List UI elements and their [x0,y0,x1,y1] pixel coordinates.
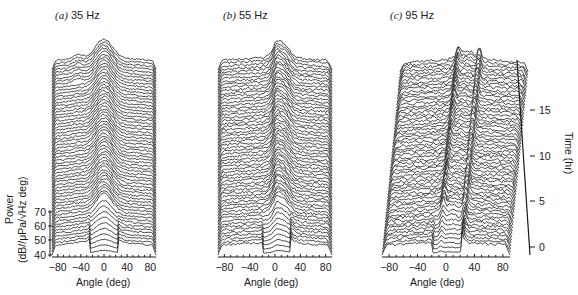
panel-b-title: (b) 55 Hz [223,10,268,21]
panel-c-xlabel: Angle (deg) [410,277,464,288]
panel-b-x-tick: 80 [320,262,332,273]
panel-a-x-tick: 40 [121,262,133,273]
panel-b-x-tick: 0 [272,262,278,273]
panel-c-x-tick: 80 [497,262,509,273]
power-tick-50: 50 [26,235,46,246]
panel-b-x-tick: −80 [215,262,233,273]
time-tick-0: 0 [539,242,545,253]
panel-a-prefix: (a) [55,9,68,21]
panel-b-frequency: 55 Hz [239,9,268,21]
panel-a-traces [52,39,156,255]
panel-c-x-tick: 0 [443,262,449,273]
power-axis-label: Power [4,194,15,224]
panel-a-x-tick: 0 [101,262,107,273]
power-tick-70: 70 [26,207,46,218]
panel-a-frequency: 35 Hz [71,9,100,21]
panel-a-xlabel: Angle (deg) [76,277,130,288]
time-axis-label: Time (hr) [564,132,575,174]
panel-a-x-tick: −80 [49,262,67,273]
panel-c-x-tick: 40 [469,262,481,273]
time-tick-5: 5 [539,196,545,207]
panel-a-title: (a) 35 Hz [55,10,100,21]
panel-c-x-tick: −40 [409,262,427,273]
panel-c-title: (c) 95 Hz [390,10,434,21]
time-tick-10: 10 [539,151,551,162]
panel-a-x-tick: 80 [144,262,156,273]
panel-b-traces [218,41,332,255]
panel-c-traces [382,46,528,255]
panel-b-prefix: (b) [223,9,236,21]
panel-b-x-tick: −40 [241,262,259,273]
waterfall-figure [0,0,578,295]
panel-c-frequency: 95 Hz [405,9,434,21]
panel-c-prefix: (c) [390,9,402,21]
power-tick-40: 40 [26,250,46,261]
panel-a-x-tick: −40 [72,262,90,273]
time-tick-15: 15 [539,105,551,116]
panel-c-x-tick: −80 [380,262,398,273]
panel-b-xlabel: Angle (deg) [244,277,298,288]
power-tick-60: 60 [26,221,46,232]
panel-b-x-tick: 40 [294,262,306,273]
power-axis-units: (dB//μPa/√Hz deg) [17,176,28,263]
